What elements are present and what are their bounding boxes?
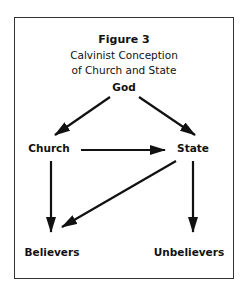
arrow-god-state xyxy=(139,97,195,135)
arrow-god-church xyxy=(55,97,110,135)
diagram-arrows xyxy=(0,0,247,295)
arrow-state-believers xyxy=(62,161,176,227)
